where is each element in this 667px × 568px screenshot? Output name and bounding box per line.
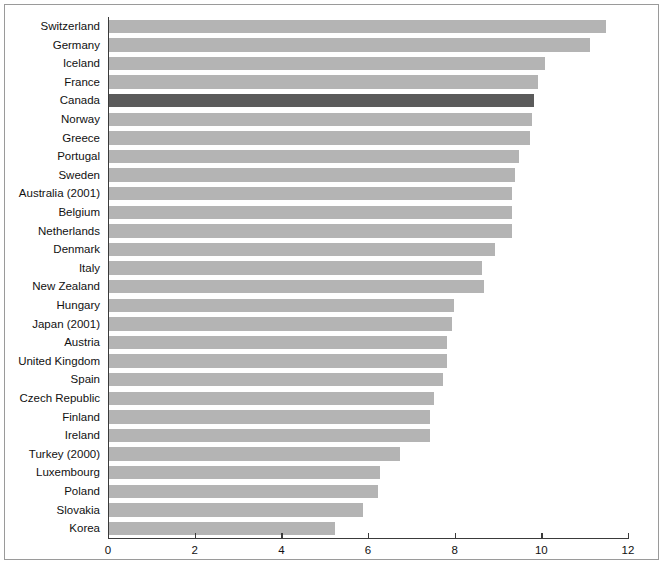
bar — [109, 243, 495, 256]
category-label: Norway — [0, 110, 100, 129]
bar-chart-row: Japan (2001) — [5, 315, 658, 334]
bar — [109, 410, 430, 423]
x-axis-tick-label: 10 — [521, 544, 561, 556]
x-axis-tick-label: 2 — [175, 544, 215, 556]
bar-chart-row: Iceland — [5, 54, 658, 73]
x-axis-tick-label: 8 — [435, 544, 475, 556]
category-label: Poland — [0, 482, 100, 501]
category-label: Sweden — [0, 166, 100, 185]
bar-chart-row: Belgium — [5, 203, 658, 222]
bar — [109, 206, 512, 219]
bar-chart-row: United Kingdom — [5, 352, 658, 371]
category-label: Canada — [0, 91, 100, 110]
category-label: Portugal — [0, 147, 100, 166]
category-label: United Kingdom — [0, 352, 100, 371]
bar — [109, 429, 430, 442]
category-label: Turkey (2000) — [0, 445, 100, 464]
x-axis-tick — [108, 533, 109, 538]
category-label: Italy — [0, 259, 100, 278]
bar-chart-row: Slovakia — [5, 501, 658, 520]
category-label: Spain — [0, 370, 100, 389]
bar-chart-row: Ireland — [5, 426, 658, 445]
x-axis-tick — [195, 533, 196, 538]
category-label: Hungary — [0, 296, 100, 315]
bar — [109, 224, 512, 237]
bar — [109, 113, 532, 126]
category-label: Switzerland — [0, 17, 100, 36]
category-label: Luxembourg — [0, 463, 100, 482]
bar-chart-row: Finland — [5, 408, 658, 427]
bar — [109, 317, 451, 330]
category-label: Greece — [0, 129, 100, 148]
bar-chart-row: France — [5, 73, 658, 92]
bar — [109, 261, 482, 274]
x-axis-tick-label: 12 — [608, 544, 648, 556]
bar-chart-row: Luxembourg — [5, 463, 658, 482]
bar — [109, 373, 443, 386]
bar-chart-row: Greece — [5, 129, 658, 148]
category-label: Czech Republic — [0, 389, 100, 408]
x-axis-tick — [281, 533, 282, 538]
category-label: Ireland — [0, 426, 100, 445]
bar — [109, 447, 399, 460]
bar-chart-row: Norway — [5, 110, 658, 129]
category-label: Japan (2001) — [0, 315, 100, 334]
bar — [109, 75, 538, 88]
bar — [109, 187, 512, 200]
bar — [109, 38, 590, 51]
category-label: New Zealand — [0, 277, 100, 296]
bar — [109, 466, 380, 479]
x-axis-tick — [541, 533, 542, 538]
bar — [109, 168, 514, 181]
bar-chart-row: Hungary — [5, 296, 658, 315]
category-label: Denmark — [0, 240, 100, 259]
category-label: Slovakia — [0, 501, 100, 520]
category-label: Australia (2001) — [0, 184, 100, 203]
bar — [109, 522, 334, 535]
x-axis-tick-label: 4 — [261, 544, 301, 556]
x-axis-tick-label: 0 — [88, 544, 128, 556]
x-axis-tick — [628, 533, 629, 538]
category-label: Netherlands — [0, 222, 100, 241]
bar-chart-row: Switzerland — [5, 17, 658, 36]
bar-chart-row: Germany — [5, 36, 658, 55]
category-label: Austria — [0, 333, 100, 352]
bar — [109, 503, 363, 516]
x-axis-tick — [455, 533, 456, 538]
bar-chart-row: Canada — [5, 91, 658, 110]
bar — [109, 336, 447, 349]
bar-chart-row: Australia (2001) — [5, 184, 658, 203]
bar-chart-row: Italy — [5, 259, 658, 278]
bar — [109, 57, 545, 70]
bar-chart-row: Spain — [5, 370, 658, 389]
bar-chart-row: Netherlands — [5, 222, 658, 241]
x-axis-line — [108, 538, 629, 539]
category-label: France — [0, 73, 100, 92]
bar-chart-plot-area: SwitzerlandGermanyIcelandFranceCanadaNor… — [5, 5, 658, 559]
bar — [109, 280, 484, 293]
x-axis-tick-label: 6 — [348, 544, 388, 556]
bar-chart-row: Sweden — [5, 166, 658, 185]
bar — [109, 299, 454, 312]
category-label: Finland — [0, 408, 100, 427]
bar-chart-row: Austria — [5, 333, 658, 352]
category-label: Korea — [0, 519, 100, 538]
bar-chart-row: New Zealand — [5, 277, 658, 296]
category-label: Germany — [0, 36, 100, 55]
bar-chart-row: Czech Republic — [5, 389, 658, 408]
bar-chart-row: Poland — [5, 482, 658, 501]
chart-frame: SwitzerlandGermanyIcelandFranceCanadaNor… — [4, 4, 659, 560]
category-label: Iceland — [0, 54, 100, 73]
x-axis-tick — [368, 533, 369, 538]
category-label: Belgium — [0, 203, 100, 222]
bar — [109, 150, 519, 163]
bar — [109, 392, 434, 405]
bar-chart-row: Turkey (2000) — [5, 445, 658, 464]
bar-chart-row: Portugal — [5, 147, 658, 166]
bar — [109, 354, 447, 367]
bar — [109, 94, 534, 107]
bar — [109, 20, 605, 33]
bar-chart-row: Denmark — [5, 240, 658, 259]
bar — [109, 485, 378, 498]
bar — [109, 131, 529, 144]
